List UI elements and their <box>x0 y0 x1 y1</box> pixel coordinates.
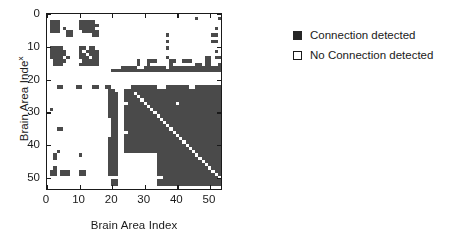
legend-item-connection: Connection detected <box>293 27 433 44</box>
connectivity-matrix-figure: Brain Area Index Brain Area Index Connec… <box>0 0 461 244</box>
y-tick-label-20: 20 <box>27 73 40 85</box>
legend-label-no-connection: No Connection detected <box>310 50 433 62</box>
connectivity-heatmap <box>47 14 221 189</box>
x-tick-label-20: 20 <box>105 193 118 205</box>
x-tick-label-30: 30 <box>137 193 150 205</box>
x-tick-10 <box>80 185 81 189</box>
y-tick-20 <box>47 80 51 81</box>
x-tick-50 <box>210 14 211 18</box>
y-tick-30 <box>217 112 221 113</box>
x-tick-20 <box>112 185 113 189</box>
heatmap-canvas <box>47 14 221 189</box>
x-tick-10 <box>80 14 81 18</box>
y-tick-50 <box>47 178 51 179</box>
y-tick-50 <box>217 178 221 179</box>
y-tick-label-10: 10 <box>27 40 40 52</box>
x-tick-20 <box>112 14 113 18</box>
x-tick-0 <box>47 185 48 189</box>
y-axis-label-suffix: x <box>16 56 25 60</box>
y-tick-label-40: 40 <box>27 138 40 150</box>
legend-item-no-connection: No Connection detected <box>293 47 433 64</box>
y-tick-0 <box>217 14 221 15</box>
y-tick-40 <box>217 145 221 146</box>
x-tick-label-10: 10 <box>72 193 85 205</box>
x-tick-40 <box>177 185 178 189</box>
y-tick-label-30: 30 <box>27 105 40 117</box>
x-tick-label-40: 40 <box>170 193 183 205</box>
y-tick-0 <box>47 14 51 15</box>
y-tick-label-50: 50 <box>27 171 40 183</box>
y-tick-40 <box>47 145 51 146</box>
y-tick-label-0: 0 <box>34 7 40 19</box>
y-tick-30 <box>47 112 51 113</box>
plot-area <box>46 13 222 190</box>
y-tick-20 <box>217 80 221 81</box>
x-tick-30 <box>145 185 146 189</box>
x-tick-40 <box>177 14 178 18</box>
legend-label-connection: Connection detected <box>310 30 416 42</box>
open-square-icon <box>293 51 302 60</box>
y-tick-10 <box>217 47 221 48</box>
x-axis-label: Brain Area Index <box>46 219 222 231</box>
x-tick-label-50: 50 <box>203 193 216 205</box>
filled-square-icon <box>293 31 302 40</box>
legend: Connection detected No Connection detect… <box>293 27 433 67</box>
y-tick-10 <box>47 47 51 48</box>
x-tick-50 <box>210 185 211 189</box>
x-tick-label-0: 0 <box>43 193 49 205</box>
x-tick-30 <box>145 14 146 18</box>
